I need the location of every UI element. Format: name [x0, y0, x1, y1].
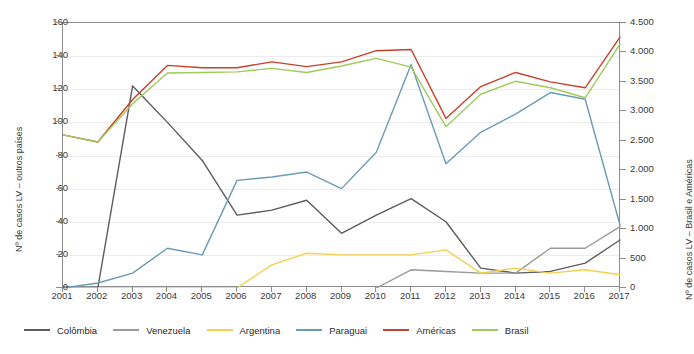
x-tick-mark [236, 287, 237, 292]
legend-item-brasil[interactable]: Brasil [472, 325, 529, 336]
left-tick-mark [56, 22, 62, 23]
series-line-argentina [63, 250, 620, 288]
right-tick-label: 3.000 [630, 105, 676, 115]
x-tick-mark [97, 287, 98, 292]
x-tick-mark [619, 287, 620, 292]
left-tick-mark [56, 188, 62, 189]
right-tick-label: 2.000 [630, 164, 676, 174]
x-tick-mark [410, 287, 411, 292]
right-tick-label: 1.000 [630, 223, 676, 233]
left-tick-mark [56, 121, 62, 122]
legend-label: Venezuela [146, 325, 190, 336]
right-tick-mark [620, 140, 626, 141]
x-tick-mark [480, 287, 481, 292]
legend-label: Argentina [240, 325, 281, 336]
legend-swatch [207, 329, 233, 331]
series-line-brasil [63, 44, 620, 142]
left-axis-title: Nº de casos LV – outros países [14, 127, 24, 252]
left-tick-label: 120 [28, 83, 68, 93]
left-tick-mark [56, 254, 62, 255]
right-tick-mark [620, 110, 626, 111]
left-tick-label: 140 [28, 50, 68, 60]
plot-area [62, 22, 620, 287]
x-tick-mark [584, 287, 585, 292]
legend-swatch [24, 329, 50, 331]
right-tick-label: 2.500 [630, 135, 676, 145]
legend-item-paraguai[interactable]: Paraguai [296, 325, 367, 336]
left-tick-label: 80 [28, 150, 68, 160]
left-tick-mark [56, 221, 62, 222]
right-tick-mark [620, 258, 626, 259]
left-tick-mark [56, 155, 62, 156]
legend-item-argentina[interactable]: Argentina [207, 325, 281, 336]
right-tick-label: 4.500 [630, 17, 676, 27]
x-tick-mark [515, 287, 516, 292]
chart-legend: ColômbiaVenezuelaArgentinaParaguaiAméric… [24, 322, 674, 338]
left-tick-label: 40 [28, 216, 68, 226]
legend-label: Colômbia [57, 325, 97, 336]
legend-label: Américas [416, 325, 456, 336]
x-tick-mark [549, 287, 550, 292]
right-tick-mark [620, 199, 626, 200]
x-tick-mark [201, 287, 202, 292]
x-tick-mark [341, 287, 342, 292]
right-axis-title: Nº de casos LV – Brasil e Américas [684, 159, 694, 300]
right-tick-label: 1.500 [630, 194, 676, 204]
right-tick-label: 500 [630, 253, 676, 263]
right-tick-mark [620, 228, 626, 229]
right-tick-mark [620, 287, 626, 288]
legend-label: Brasil [505, 325, 529, 336]
series-line-venezuela [376, 227, 620, 288]
left-tick-label: 20 [28, 249, 68, 259]
x-tick-mark [166, 287, 167, 292]
legend-label: Paraguai [329, 325, 367, 336]
legend-swatch [296, 329, 322, 331]
right-tick-label: 3.500 [630, 76, 676, 86]
legend-swatch [113, 329, 139, 331]
legend-item-amricas[interactable]: Américas [383, 325, 456, 336]
x-tick-mark [62, 287, 63, 292]
left-tick-label: 60 [28, 183, 68, 193]
left-tick-mark [56, 55, 62, 56]
x-tick-mark [306, 287, 307, 292]
right-tick-mark [620, 51, 626, 52]
left-tick-label: 100 [28, 116, 68, 126]
x-tick-mark [445, 287, 446, 292]
right-tick-mark [620, 169, 626, 170]
x-tick-label: 2017 [599, 291, 639, 301]
x-tick-mark [271, 287, 272, 292]
legend-swatch [472, 329, 498, 331]
left-tick-label: 160 [28, 17, 68, 27]
series-line-amricas [63, 37, 620, 142]
legend-item-venezuela[interactable]: Venezuela [113, 325, 190, 336]
right-tick-label: 4.000 [630, 46, 676, 56]
legend-swatch [383, 329, 409, 331]
legend-item-colmbia[interactable]: Colômbia [24, 325, 97, 336]
left-tick-mark [56, 88, 62, 89]
right-tick-mark [620, 81, 626, 82]
x-tick-mark [132, 287, 133, 292]
x-tick-mark [375, 287, 376, 292]
right-tick-mark [620, 22, 626, 23]
series-layer [63, 23, 621, 288]
